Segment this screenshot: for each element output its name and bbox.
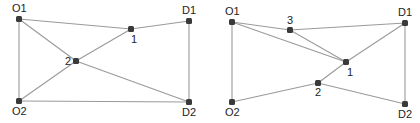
node-label-1: 1 xyxy=(347,66,353,78)
node-label-d2: D2 xyxy=(398,108,412,120)
node-label-1: 1 xyxy=(131,33,137,45)
node-label-2: 2 xyxy=(315,86,321,98)
node-label-o1: O1 xyxy=(225,5,240,17)
node-label-3: 3 xyxy=(287,14,293,26)
edge-3-1 xyxy=(290,30,346,62)
edges-left xyxy=(19,19,189,102)
node-label-o2: O2 xyxy=(12,105,27,117)
node-o2 xyxy=(229,99,235,105)
node-label-o2: O2 xyxy=(225,106,240,118)
edge-2-o2 xyxy=(232,83,318,102)
edge-1-d1 xyxy=(346,23,405,62)
node-d2 xyxy=(402,101,408,107)
node-label-2: 2 xyxy=(65,55,71,67)
edge-3-d1 xyxy=(290,23,405,30)
node-d2 xyxy=(186,99,192,105)
edge-2-o2 xyxy=(19,61,76,101)
node-1 xyxy=(343,59,349,65)
node-label-o1: O1 xyxy=(12,2,27,14)
edge-1-2 xyxy=(318,62,346,83)
network-right: O1D1312O2D2 xyxy=(225,5,412,120)
node-o1 xyxy=(229,19,235,25)
node-label-d1: D1 xyxy=(182,4,196,16)
nodes-right: O1D1312O2D2 xyxy=(225,5,412,120)
node-d1 xyxy=(186,18,192,24)
node-d1 xyxy=(402,20,408,26)
edge-1-d1 xyxy=(131,21,189,29)
node-label-d1: D1 xyxy=(398,6,412,18)
node-1 xyxy=(128,26,134,32)
network-left: O1D112O2D2 xyxy=(12,2,196,118)
edge-2-d2 xyxy=(318,83,405,104)
edge-o1-1 xyxy=(19,19,131,29)
node-3 xyxy=(287,27,293,33)
edge-2-d2 xyxy=(76,61,189,102)
node-o2 xyxy=(16,98,22,104)
node-label-d2: D2 xyxy=(182,106,196,118)
node-2 xyxy=(73,58,79,64)
edge-o2-d2 xyxy=(19,101,189,102)
network-diagrams: O1D112O2D2 O1D1312O2D2 xyxy=(0,0,420,123)
edge-o1-3 xyxy=(232,22,290,30)
edge-2-1 xyxy=(76,29,131,61)
node-o1 xyxy=(16,16,22,22)
